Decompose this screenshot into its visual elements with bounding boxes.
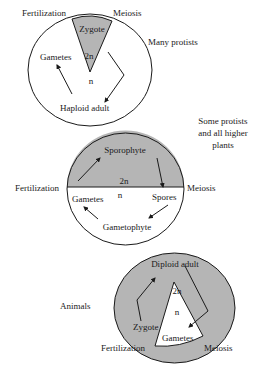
cycle-diploid-dominant: Diploid adult 2n n Zygote Gametes Fertil… <box>60 253 235 363</box>
label-gametes: Gametes <box>40 52 72 62</box>
label-haploid-adult: Haploid adult <box>60 103 110 113</box>
label-gametes: Gametes <box>72 194 104 204</box>
label-diploid-adult: Diploid adult <box>151 259 199 269</box>
label-spores: Spores <box>152 192 177 202</box>
group-label: Many protists <box>148 37 198 47</box>
label-n: n <box>89 76 94 86</box>
group-label-line-1: Some protists <box>198 116 248 126</box>
label-meiosis: Meiosis <box>204 343 233 353</box>
label-2n: 2n <box>120 176 130 186</box>
group-label: Animals <box>60 301 91 311</box>
label-fertilization: Fertilization <box>101 343 145 353</box>
label-2n: 2n <box>173 286 183 296</box>
group-label-line-2: and all higher <box>198 128 247 138</box>
label-gametes: Gametes <box>162 333 194 343</box>
life-cycle-diagram: Fertilization Meiosis Zygote 2n n Gamete… <box>0 0 258 365</box>
arrow-spores-to-gametophyte <box>149 205 168 218</box>
label-fertilization: Fertilization <box>15 183 59 193</box>
label-meiosis: Meiosis <box>113 8 142 18</box>
cycle-haploid-dominant: Fertilization Meiosis Zygote 2n n Gamete… <box>22 8 198 126</box>
label-sporophyte: Sporophyte <box>104 145 146 155</box>
label-n: n <box>175 307 180 317</box>
group-label-line-3: plants <box>212 140 234 150</box>
label-n: n <box>118 190 123 200</box>
label-gametophyte: Gametophyte <box>103 222 152 232</box>
cycle-alternation-of-generations: Some protists and all higher plants Spor… <box>15 116 248 245</box>
label-meiosis: Meiosis <box>187 183 216 193</box>
label-zygote: Zygote <box>133 322 159 332</box>
label-2n: 2n <box>85 51 95 61</box>
arrow-gametophyte-to-gametes <box>84 207 98 219</box>
label-fertilization: Fertilization <box>22 8 66 18</box>
label-zygote: Zygote <box>79 24 105 34</box>
